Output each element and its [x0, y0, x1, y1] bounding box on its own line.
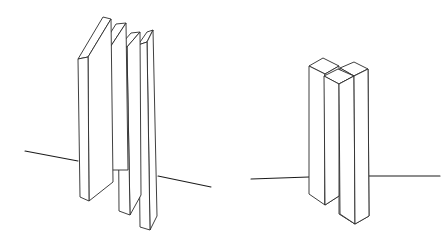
right-sketch	[251, 58, 440, 224]
slab-1	[78, 17, 113, 201]
prism-front-lower	[339, 69, 369, 224]
sketch-svg	[0, 0, 442, 247]
drawing-canvas	[0, 0, 442, 247]
left-sketch	[25, 17, 211, 230]
